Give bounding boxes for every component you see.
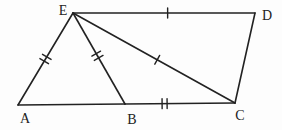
tick-mark-EB: [92, 51, 101, 56]
tick-mark-EB: [94, 55, 103, 60]
segment-DC: [235, 13, 255, 103]
geometry-canvas: ABCDE: [0, 0, 282, 130]
segment-BC: [125, 103, 235, 104]
tick-mark-EC: [155, 55, 160, 64]
point-label-A: A: [20, 111, 31, 126]
segment-AE: [18, 13, 73, 105]
point-label-D: D: [262, 8, 272, 23]
figure: ABCDE: [0, 0, 282, 130]
segment-AB: [18, 104, 125, 105]
tick-mark-AE: [40, 59, 49, 64]
point-label-B: B: [127, 112, 136, 127]
tick-mark-AE: [42, 54, 51, 59]
point-label-E: E: [59, 3, 68, 18]
point-label-C: C: [235, 108, 244, 123]
